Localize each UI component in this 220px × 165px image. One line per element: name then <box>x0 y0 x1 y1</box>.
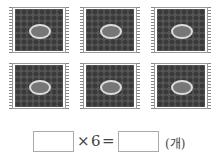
bean-packet-icon <box>150 5 212 55</box>
equals-sign: = <box>102 132 115 150</box>
bean-packet-icon <box>79 5 141 55</box>
result-answer-box[interactable] <box>118 131 159 152</box>
equation: × 6 = (개) <box>0 131 220 151</box>
unit-label: (개) <box>165 134 185 151</box>
first-answer-box[interactable] <box>33 131 74 152</box>
bean-packet-icon <box>8 5 70 55</box>
multiplier: 6 <box>91 132 101 150</box>
multiply-sign: × <box>77 132 90 150</box>
bean-packet-icon <box>150 61 212 111</box>
bean-packet-icon <box>79 61 141 111</box>
bean-packet-icon <box>8 61 70 111</box>
